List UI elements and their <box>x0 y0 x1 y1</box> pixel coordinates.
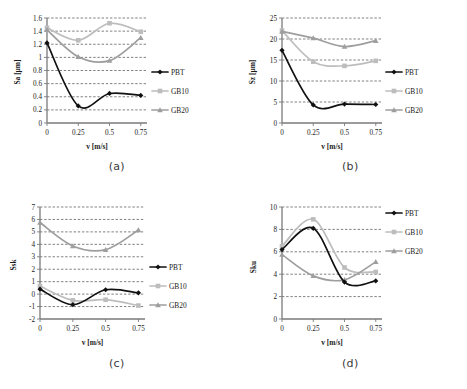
y-tick-label: 0 <box>38 120 42 128</box>
data-point-gb20 <box>372 259 378 264</box>
legend-label-gb20: GB20 <box>169 300 187 309</box>
data-point-gb20 <box>37 219 43 224</box>
legend-swatch-marker-gb10 <box>156 283 161 288</box>
series-line-pbt <box>282 50 376 108</box>
y-tick-label: 10 <box>269 203 277 211</box>
data-point-gb20 <box>136 227 142 232</box>
x-tick-label: 0.75 <box>369 129 382 137</box>
legend-label-gb20: GB20 <box>405 246 423 255</box>
data-point-pbt <box>373 102 378 107</box>
data-point-pbt <box>136 290 141 295</box>
legend-swatch-marker-gb10 <box>391 89 396 94</box>
legend-label-pbt: PBT <box>169 262 183 271</box>
data-point-gb10 <box>373 269 378 274</box>
x-tick-label: 0.75 <box>132 325 145 333</box>
panel-caption-c: (c) <box>0 357 234 370</box>
data-point-pbt <box>138 93 143 98</box>
legend-label-pbt: PBT <box>405 208 419 217</box>
y-tick-label: 1.2 <box>33 41 42 49</box>
y-axis-label: Ssk <box>9 258 18 270</box>
data-point-gb10 <box>373 59 378 64</box>
x-tick-label: 0.5 <box>101 325 110 333</box>
y-tick-label: 3 <box>31 253 35 261</box>
x-tick-label: 0.5 <box>105 129 114 137</box>
y-axis-label: Sku <box>249 260 258 272</box>
x-axis-label: v [m/s] <box>321 338 343 347</box>
x-tick-label: 0.5 <box>340 129 349 137</box>
y-tick-label: 0.8 <box>33 67 42 75</box>
legend-swatch-marker-pbt <box>155 264 160 269</box>
figure-grid: 00.20.40.60.811.21.41.600.250.50.75v [m/… <box>0 0 467 389</box>
series-line-gb10 <box>40 286 138 306</box>
legend-label-gb10: GB10 <box>405 227 423 236</box>
x-tick-label: 0 <box>280 325 284 333</box>
panel-a: 00.20.40.60.811.21.41.600.250.50.75v [m/… <box>0 0 234 195</box>
panel-caption-b: (b) <box>234 160 467 173</box>
x-tick-label: 0.75 <box>134 129 147 137</box>
legend-label-pbt: PBT <box>405 68 419 77</box>
legend: PBTGB10GB20 <box>150 262 187 309</box>
data-point-gb10 <box>107 21 112 26</box>
data-point-gb10 <box>138 29 143 34</box>
legend: PBTGB10GB20 <box>386 208 423 255</box>
x-tick-label: 0 <box>45 129 49 137</box>
y-tick-label: 10 <box>269 78 277 86</box>
data-point-gb20 <box>138 35 144 40</box>
legend-swatch-marker-pbt <box>391 69 396 74</box>
y-tick-label: 6 <box>273 248 277 256</box>
legend: PBTGB10GB20 <box>152 68 189 115</box>
legend-label-gb10: GB10 <box>169 281 187 290</box>
data-point-pbt <box>103 287 108 292</box>
series-line-gb10 <box>282 31 376 67</box>
panel-d: 024681000.250.50.75v [m/s]SkuPBTGB10GB20… <box>234 195 467 389</box>
x-axis-label: v [m/s] <box>82 338 104 347</box>
y-tick-label: 20 <box>269 36 277 44</box>
y-tick-label: 5 <box>31 228 35 236</box>
series-line-pbt <box>282 227 376 285</box>
y-tick-label: 4 <box>31 240 35 248</box>
y-tick-label: 25 <box>269 15 277 23</box>
legend-label-gb20: GB20 <box>171 106 189 115</box>
legend-swatch-marker-gb10 <box>158 89 163 94</box>
legend-swatch-marker-pbt <box>157 69 162 74</box>
data-point-pbt <box>373 278 378 283</box>
x-tick-label: 0.25 <box>306 129 319 137</box>
y-tick-label: 4 <box>273 270 277 278</box>
series-line-gb20 <box>40 222 138 250</box>
x-tick-label: 0.5 <box>340 325 349 333</box>
x-tick-label: 0.25 <box>72 129 85 137</box>
data-point-gb20 <box>279 251 285 256</box>
legend-label-gb20: GB20 <box>405 106 423 115</box>
x-tick-label: 0.25 <box>306 325 319 333</box>
legend-swatch-marker-gb10 <box>391 229 396 234</box>
data-point-gb10 <box>103 297 108 302</box>
y-tick-label: -2 <box>29 315 35 323</box>
panel-c: -2-10123456700.250.50.75v [m/s]SskPBTGB1… <box>0 195 234 389</box>
y-tick-label: 8 <box>273 226 277 234</box>
y-tick-label: 1.6 <box>33 15 42 23</box>
data-point-gb10 <box>136 303 141 308</box>
y-tick-label: 1 <box>31 278 35 286</box>
data-point-gb10 <box>342 64 347 69</box>
y-tick-label: 5 <box>273 99 277 107</box>
series-line-gb10 <box>47 23 141 40</box>
series-line-gb20 <box>282 254 376 280</box>
data-point-pbt <box>44 40 49 45</box>
x-tick-label: 0.25 <box>67 325 80 333</box>
x-axis-label: v [m/s] <box>86 142 108 151</box>
y-tick-label: 0.6 <box>33 80 42 88</box>
panel-b: 051015202500.250.50.75v [m/s]Sz [µm]PBTG… <box>234 0 467 195</box>
series-line-pbt <box>47 43 141 108</box>
y-tick-label: 0 <box>31 290 35 298</box>
y-axis-label: Sz [µm] <box>248 60 257 85</box>
x-tick-label: 0 <box>280 129 284 137</box>
x-tick-label: 0 <box>38 325 42 333</box>
y-tick-label: 0 <box>273 315 277 323</box>
legend-swatch-marker-pbt <box>391 210 396 215</box>
y-tick-label: 0 <box>273 120 277 128</box>
data-point-gb10 <box>342 265 347 270</box>
data-point-gb10 <box>71 298 76 303</box>
y-tick-label: 2 <box>31 265 35 273</box>
y-tick-label: 1 <box>38 54 42 62</box>
y-tick-label: 6 <box>31 216 35 224</box>
